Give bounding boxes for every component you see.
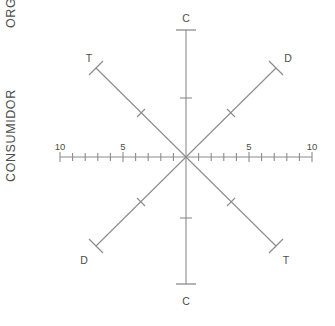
spoke-label-lower-right-t: T xyxy=(283,254,290,266)
diagram-canvas: 10 5 5 10 C C T T xyxy=(0,0,335,326)
axis-number-left-outer: 10 xyxy=(55,141,66,152)
spoke-label-top-c: C xyxy=(182,12,190,24)
vertical-axis: C C xyxy=(176,12,196,307)
axis-number-left-inner: 5 xyxy=(120,141,125,152)
axis-number-right-outer: 10 xyxy=(307,141,318,152)
spoke-label-bottom-c: C xyxy=(182,295,190,307)
spoke-label-lower-left-d: D xyxy=(80,254,88,266)
axis-number-right-inner: 5 xyxy=(246,141,251,152)
spoke-label-upper-left-t: T xyxy=(86,52,93,64)
radar-axis-diagram: ORGANIZAÇÃO CONSUMIDOR xyxy=(0,0,335,326)
spoke-label-upper-right-d: D xyxy=(284,52,292,64)
